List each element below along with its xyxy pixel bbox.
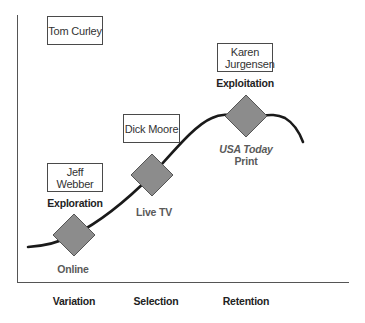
node-label-usa-today: USA Today [219, 143, 272, 155]
phase-label-exploration: Exploration [47, 197, 103, 209]
person-name: Dick Moore [125, 123, 179, 135]
person-name: Tom Curley [48, 25, 102, 37]
person-box-dick-moore: Dick Moore [123, 114, 180, 143]
x-axis-label-variation: Variation [53, 295, 96, 307]
print-diamond [225, 95, 267, 137]
x-axis-label-retention: Retention [223, 295, 270, 307]
x-axis-label-selection: Selection [134, 295, 179, 307]
node-label-online: Online [57, 263, 88, 275]
person-name: Karen Jurgensen [225, 46, 265, 70]
node-label-live-tv: Live TV [136, 206, 172, 218]
diagram-canvas: Tom Curley Karen Jurgensen Dick Moore Je… [0, 0, 365, 323]
person-box-karen-jurgensen: Karen Jurgensen [217, 43, 273, 72]
online-diamond [53, 214, 95, 256]
phase-label-exploitation: Exploitation [216, 77, 274, 89]
person-name: Jeff Webber [48, 166, 102, 190]
person-box-tom-curley: Tom Curley [47, 16, 103, 45]
diagram-graphics [0, 0, 365, 323]
person-box-jeff-webber: Jeff Webber [47, 163, 103, 192]
node-label-print: Print [235, 155, 258, 167]
